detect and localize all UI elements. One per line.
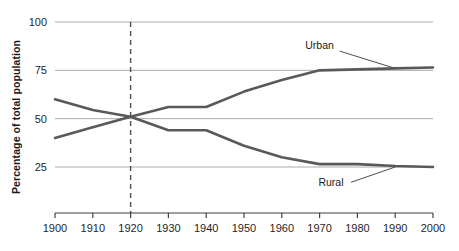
rural-series-label: Rural <box>318 176 343 188</box>
x-axis-tick-label: 1920 <box>118 222 142 234</box>
y-axis-title-text: Percentage of total population <box>10 40 22 194</box>
y-axis-title: Percentage of total population <box>10 40 22 194</box>
x-axis-tick-label: 2000 <box>421 222 445 234</box>
x-axis-tick-label: 1940 <box>194 222 218 234</box>
y-axis-tick-label: 75 <box>35 64 47 76</box>
y-axis-tick-label: 100 <box>29 16 47 28</box>
urban-series-label: Urban <box>305 39 334 51</box>
x-axis-tick-label: 1950 <box>232 222 256 234</box>
x-axis-tick-label-group: 1900191019201930194019501960197019801990… <box>43 222 445 234</box>
population-line-chart: 100755025 Percentage of total population… <box>0 0 459 251</box>
x-axis-tick-label: 1930 <box>156 222 180 234</box>
x-axis-tick-label: 1980 <box>345 222 369 234</box>
x-axis-tick-label: 1960 <box>270 222 294 234</box>
y-axis-tick-label: 25 <box>35 161 47 173</box>
x-axis-tick-label: 1970 <box>307 222 331 234</box>
chart-container: 100755025 Percentage of total population… <box>0 0 459 251</box>
x-axis-tick-label: 1910 <box>81 222 105 234</box>
x-axis-tick-label: 1900 <box>43 222 67 234</box>
y-axis-tick-label: 50 <box>35 113 47 125</box>
x-axis-tick-label: 1990 <box>383 222 407 234</box>
